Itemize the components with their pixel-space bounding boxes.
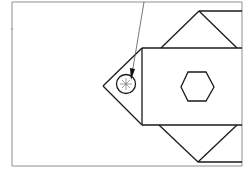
left-tip xyxy=(103,48,142,125)
upper-flap xyxy=(161,11,242,48)
drawing-canvas xyxy=(0,0,249,174)
pivot-marker xyxy=(117,75,136,94)
central-body xyxy=(142,48,242,125)
hexagon-feature xyxy=(181,72,214,101)
line-drawing xyxy=(0,0,249,174)
lower-flap xyxy=(159,125,242,162)
